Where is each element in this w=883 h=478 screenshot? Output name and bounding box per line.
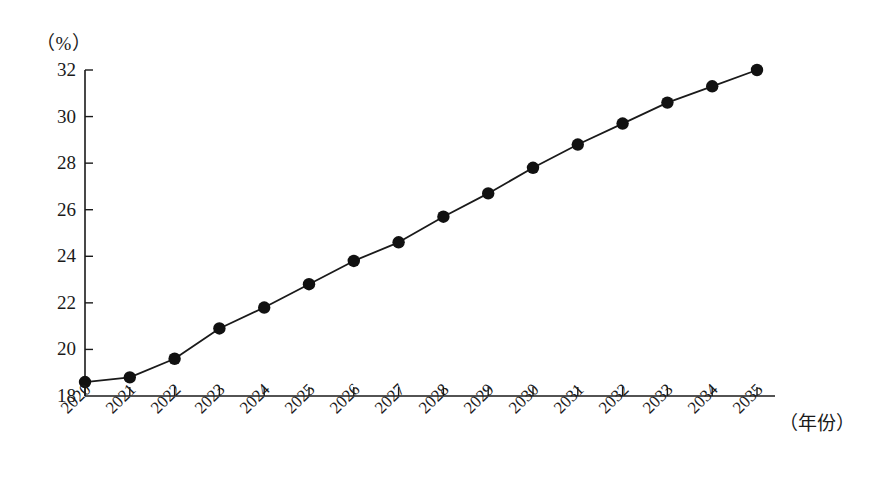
x-axis-title: （年份） — [779, 408, 855, 435]
line-chart: （%） 1820222426283032 2020202120222023202… — [0, 0, 883, 478]
data-point-marker — [572, 138, 584, 150]
data-point-marker — [616, 117, 628, 129]
data-point-marker — [213, 322, 225, 334]
data-point-marker — [527, 162, 539, 174]
data-point-marker — [258, 301, 270, 313]
data-point-marker — [168, 353, 180, 365]
y-axis-tick-label: 26 — [28, 199, 76, 221]
data-point-marker — [661, 96, 673, 108]
y-axis-tick-label: 32 — [28, 59, 76, 81]
y-axis-tick-label: 22 — [28, 292, 76, 314]
data-point-marker — [392, 236, 404, 248]
data-point-marker — [706, 80, 718, 92]
data-point-marker — [482, 187, 494, 199]
y-axis-tick-label: 30 — [28, 106, 76, 128]
y-axis-tick-label: 20 — [28, 338, 76, 360]
y-axis-tick-label: 24 — [28, 245, 76, 267]
data-line — [85, 70, 757, 382]
data-point-marker — [437, 211, 449, 223]
y-axis-tick-label: 28 — [28, 152, 76, 174]
data-point-marker — [751, 64, 763, 76]
data-point-marker — [303, 278, 315, 290]
data-point-marker — [348, 255, 360, 267]
